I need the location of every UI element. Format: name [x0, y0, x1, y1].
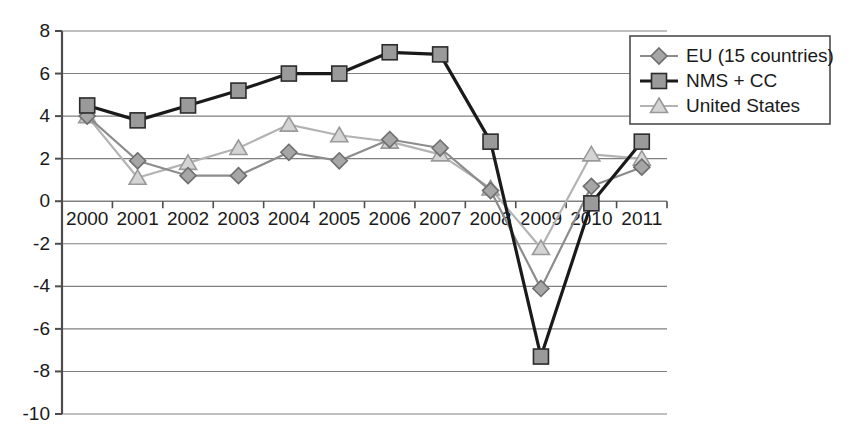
- square-marker: [231, 83, 246, 98]
- x-tick-label-2001: 2001: [116, 208, 158, 229]
- y-tick-label--6: -6: [33, 318, 50, 339]
- legend-item-nms-cc[interactable]: NMS + CC: [640, 70, 777, 91]
- square-marker: [483, 134, 498, 149]
- chart-canvas: 86420-2-4-6-8-10 20002001200220032004200…: [0, 0, 858, 443]
- y-tick-label-0: 0: [39, 190, 50, 211]
- y-tick-label--8: -8: [33, 360, 50, 381]
- square-marker: [181, 98, 196, 113]
- x-tick-label-2000: 2000: [66, 208, 108, 229]
- data-point-2002: [181, 98, 196, 113]
- y-tick-label--4: -4: [33, 275, 50, 296]
- square-marker: [80, 98, 95, 113]
- data-point-2001: [130, 113, 145, 128]
- y-tick-label-8: 8: [39, 20, 50, 41]
- growth-rate-line-chart: 86420-2-4-6-8-10 20002001200220032004200…: [0, 0, 858, 443]
- x-tick-label-2006: 2006: [369, 208, 411, 229]
- data-point-2006: [382, 45, 397, 60]
- data-point-2000: [80, 98, 95, 113]
- x-tick-label-2002: 2002: [167, 208, 209, 229]
- y-tick-label-4: 4: [39, 105, 50, 126]
- x-tick-label-2011: 2011: [621, 208, 662, 229]
- legend-label: EU (15 countries): [686, 45, 834, 66]
- y-tick-label--10: -10: [23, 403, 50, 424]
- data-point-2009: [533, 349, 548, 364]
- chart-legend: EU (15 countries)NMS + CCUnited States: [630, 36, 834, 124]
- data-point-2005: [332, 66, 347, 81]
- square-marker: [130, 113, 145, 128]
- square-marker: [433, 47, 448, 62]
- data-point-2010: [584, 196, 599, 211]
- data-point-2004: [281, 66, 296, 81]
- legend-swatch-marker: [652, 74, 667, 89]
- square-marker: [634, 134, 649, 149]
- x-tick-label-2007: 2007: [419, 208, 461, 229]
- x-tick-label-2005: 2005: [318, 208, 360, 229]
- data-point-2003: [231, 83, 246, 98]
- y-tick-label--2: -2: [33, 233, 50, 254]
- x-tick-label-2004: 2004: [268, 208, 311, 229]
- square-marker: [652, 74, 667, 89]
- legend-label: United States: [686, 95, 800, 116]
- y-tick-label-2: 2: [39, 148, 50, 169]
- data-point-2011: [634, 134, 649, 149]
- data-point-2007: [433, 47, 448, 62]
- x-tick-label-2003: 2003: [217, 208, 259, 229]
- square-marker: [533, 349, 548, 364]
- square-marker: [281, 66, 296, 81]
- square-marker: [332, 66, 347, 81]
- square-marker: [382, 45, 397, 60]
- data-point-2008: [483, 134, 498, 149]
- y-tick-label-6: 6: [39, 63, 50, 84]
- legend-label: NMS + CC: [686, 70, 777, 91]
- square-marker: [584, 196, 599, 211]
